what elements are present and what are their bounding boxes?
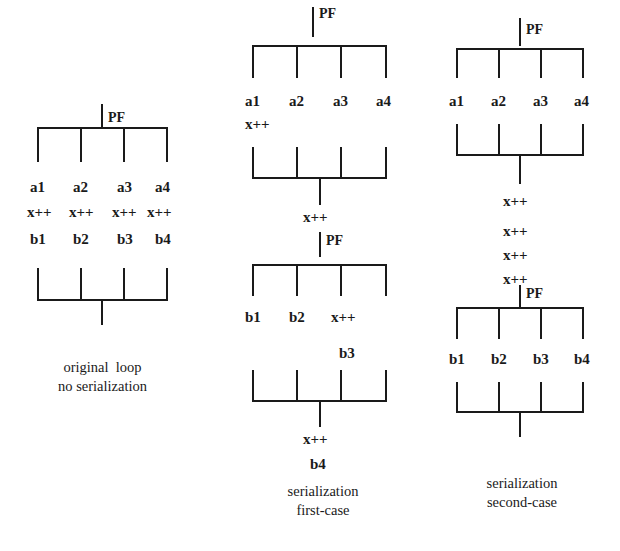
cell-b2-first-case: b2 xyxy=(289,310,305,325)
join2-branch-2-second-case xyxy=(498,382,500,413)
cell-a3-original: a3 xyxy=(117,180,132,195)
cell-a1-second-case: a1 xyxy=(449,94,464,109)
fork1-branch-4-first-case xyxy=(385,45,387,78)
serial-x-2-second-case: x++ xyxy=(503,224,528,239)
fork2-branch-4-first-case xyxy=(385,264,387,296)
fork2-branch-1-second-case xyxy=(456,307,458,339)
fork1-branch-2-second-case xyxy=(498,48,500,78)
cell-b4-original: b4 xyxy=(155,232,171,247)
fork2-branch-3-first-case xyxy=(340,264,342,296)
fork2-entry-stem-first-case xyxy=(319,232,321,257)
join2-branch-3-first-case xyxy=(340,370,342,402)
fork2-branch-1-first-case xyxy=(252,264,254,296)
serial-x-1-second-case: x++ xyxy=(503,194,528,209)
fork1-branch-1-second-case xyxy=(456,48,458,78)
join2-exit-stem-first-case xyxy=(319,400,321,427)
join2-exit-stem-second-case xyxy=(519,411,521,437)
cell-b1-original: b1 xyxy=(30,232,46,247)
fork1-branch-3-first-case xyxy=(340,45,342,78)
fork1-bar-first-case xyxy=(252,45,387,47)
exit-stem-original xyxy=(101,299,103,325)
cell-a1-original: a1 xyxy=(30,180,45,195)
cell-x3-original: x++ xyxy=(112,205,137,220)
join2-branch-1-second-case xyxy=(456,382,458,413)
join1-branch-2-first-case xyxy=(296,147,298,179)
join2-branch-3-second-case xyxy=(540,382,542,413)
join1-branch-4-second-case xyxy=(582,124,584,156)
join1-exit-stem-first-case xyxy=(319,177,321,205)
cell-a3-first-case: a3 xyxy=(333,94,348,109)
join-branch-4-original xyxy=(166,268,168,301)
join2-branch-4-first-case xyxy=(385,370,387,402)
cell-b3-original: b3 xyxy=(117,232,133,247)
cell-x1-original: x++ xyxy=(27,205,52,220)
fork-branch-2-original xyxy=(80,127,82,162)
cell-a1-first-case: a1 xyxy=(245,94,260,109)
fork-branch-1-original xyxy=(37,127,39,162)
cell-b1-second-case: b1 xyxy=(449,352,465,367)
join2-branch-1-first-case xyxy=(252,370,254,402)
cell-b3-second-case: b3 xyxy=(533,352,549,367)
fork2-bar-first-case xyxy=(252,264,387,266)
fork2-branch-3-second-case xyxy=(540,307,542,339)
join1-branch-3-first-case xyxy=(340,147,342,179)
fork1-branch-4-second-case xyxy=(582,48,584,78)
cell-a2-second-case: a2 xyxy=(491,94,506,109)
cell-x4-original: x++ xyxy=(147,205,172,220)
fork-label-mid-second-case: PF xyxy=(526,286,543,301)
fork-branch-3-original xyxy=(123,127,125,162)
serial-x-4-second-case: x++ xyxy=(503,272,528,287)
cell-x2-original: x++ xyxy=(69,205,94,220)
join-branch-2-original xyxy=(80,268,82,301)
fork2-branch-2-second-case xyxy=(498,307,500,339)
cell-a4-first-case: a4 xyxy=(376,94,391,109)
caption-first-case-line1: serialization xyxy=(228,482,418,501)
fork-label-top-first-case: PF xyxy=(319,6,336,21)
cell-b3-first-case: b3 xyxy=(339,346,355,361)
entry-stem-first-case xyxy=(312,7,314,37)
cell-x-b-first-case: x++ xyxy=(331,310,356,325)
cell-b2-second-case: b2 xyxy=(491,352,507,367)
cell-b1-first-case: b1 xyxy=(245,310,261,325)
cell-a3-second-case: a3 xyxy=(533,94,548,109)
caption-original-line1: original loop xyxy=(0,358,205,377)
join2-label-first-case: x++ xyxy=(303,432,328,447)
fork-bar-original xyxy=(37,127,168,129)
fork1-branch-1-first-case xyxy=(252,45,254,78)
join2-branch-2-first-case xyxy=(296,370,298,402)
join1-branch-3-second-case xyxy=(540,124,542,156)
fork1-branch-2-first-case xyxy=(296,45,298,78)
fork1-bar-second-case xyxy=(456,48,584,50)
join1-branch-4-first-case xyxy=(385,147,387,179)
entry-stem-second-case xyxy=(519,18,521,46)
join1-exit-stem-second-case xyxy=(519,154,521,184)
join2-branch-4-second-case xyxy=(582,382,584,413)
join-branch-1-original xyxy=(37,268,39,301)
join1-branch-2-second-case xyxy=(498,124,500,156)
fork-branch-4-original xyxy=(166,127,168,162)
caption-original-line2: no serialization xyxy=(0,377,205,396)
fork2-branch-4-second-case xyxy=(582,307,584,339)
fork2-branch-2-first-case xyxy=(296,264,298,296)
caption-first-case-line2: first-case xyxy=(228,501,418,520)
cell-b4-second-case: b4 xyxy=(574,352,590,367)
serial-x-3-second-case: x++ xyxy=(503,248,528,263)
caption-second-case-line1: serialization xyxy=(432,474,612,493)
join1-branch-1-first-case xyxy=(252,147,254,179)
join-branch-3-original xyxy=(123,268,125,301)
cell-a2-first-case: a2 xyxy=(289,94,304,109)
fork2-entry-stem-second-case xyxy=(519,285,521,309)
entry-stem-original xyxy=(101,104,103,128)
fork1-branch-3-second-case xyxy=(540,48,542,78)
caption-second-case-line2: second-case xyxy=(432,493,612,512)
cell-a4-original: a4 xyxy=(155,180,170,195)
cell-b4-first-case: b4 xyxy=(310,457,326,472)
fork-label-original: PF xyxy=(108,110,125,125)
cell-a2-original: a2 xyxy=(73,180,88,195)
fork-join-figure: PF a1 a2 a3 a4 x++ x++ x++ x++ b1 b2 b3 … xyxy=(0,0,620,551)
fork-label-mid-first-case: PF xyxy=(326,233,343,248)
join1-label-first-case: x++ xyxy=(303,210,328,225)
cell-b2-original: b2 xyxy=(73,232,89,247)
fork-label-top-second-case: PF xyxy=(526,22,543,37)
cell-a4-second-case: a4 xyxy=(574,94,589,109)
